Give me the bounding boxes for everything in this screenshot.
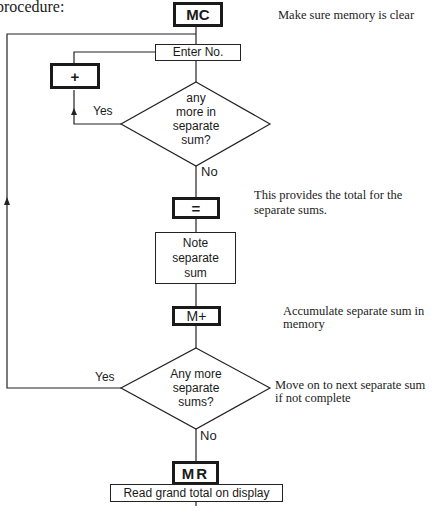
mc-key: MC — [173, 2, 223, 27]
m-plus-note: Accumulate separate sum in memory — [283, 305, 424, 331]
step-text: sum — [184, 266, 207, 281]
decision-text: sum? — [156, 133, 236, 147]
step-text: Note — [183, 236, 208, 251]
m-plus-key: M+ — [172, 306, 221, 326]
step-text: separate — [172, 251, 219, 266]
decision-text: separate — [156, 381, 236, 395]
decision-any-more-separate-sums: Any more separate sums? — [156, 367, 236, 409]
mc-note: Make sure memory is clear — [278, 9, 414, 22]
decision-text: any — [156, 91, 236, 105]
read-grand-total-step: Read grand total on display — [110, 484, 283, 502]
decision-more-in-separate-sum: any more in separate sum? — [156, 91, 236, 147]
equals-key: = — [172, 197, 220, 219]
note-separate-sum-step: Note separate sum — [155, 232, 236, 284]
note-text: separate sums. — [254, 204, 402, 217]
mr-key: MR — [172, 461, 219, 485]
decision-text: sums? — [156, 395, 236, 409]
decision-text: separate — [156, 119, 236, 133]
note-text: This provides the total for the — [254, 189, 402, 202]
yes-label: Yes — [93, 104, 113, 118]
no-label: No — [200, 428, 217, 443]
no-label: No — [201, 164, 218, 179]
decision-text: more in — [156, 105, 236, 119]
yes-label: Yes — [95, 370, 115, 384]
decision-text: Any more — [156, 367, 236, 381]
enter-number-step: Enter No. — [155, 44, 241, 61]
arrow-up-icon — [4, 197, 10, 205]
note-text: memory — [283, 318, 424, 331]
note-text: if not complete — [275, 392, 425, 405]
plus-key: + — [50, 63, 100, 89]
decision2-note: Move on to next separate sum if not comp… — [275, 379, 425, 405]
procedure-heading: procedure: — [0, 0, 64, 16]
arrow-up-icon — [71, 108, 77, 115]
equals-note: This provides the total for the separate… — [254, 189, 402, 217]
